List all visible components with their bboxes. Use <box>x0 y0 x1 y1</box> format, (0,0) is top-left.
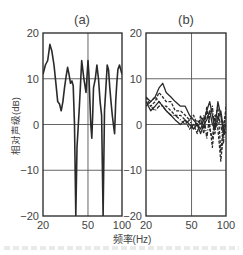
panel-b-title: (b) <box>178 12 194 27</box>
x-tick-label: 20 <box>140 219 152 231</box>
y-tick-label: −10 <box>20 164 39 176</box>
y-axis-label: 相对声级(dB) <box>10 97 21 155</box>
chart-canvas: (a) (b) 相对声级(dB) 频率(Hz) 20100−10−2020501… <box>0 0 243 255</box>
x-tick-label: 50 <box>185 219 197 231</box>
x-tick-label: 100 <box>217 219 235 231</box>
y-tick-label: 10 <box>130 73 142 85</box>
series-line <box>43 44 122 216</box>
y-tick-label: 20 <box>130 27 142 39</box>
figure: (a) (b) 相对声级(dB) 频率(Hz) 20100−10−2020501… <box>0 0 243 255</box>
x-tick-label: 20 <box>37 219 49 231</box>
panel-b: 20100−10−202050100 <box>123 27 235 231</box>
panel-a: 20100−10−202050100 <box>20 27 131 231</box>
y-tick-label: −10 <box>123 164 142 176</box>
y-tick-label: 10 <box>27 73 39 85</box>
y-tick-label: 20 <box>27 27 39 39</box>
cut-off-caption <box>4 246 239 250</box>
x-tick-label: 50 <box>82 219 94 231</box>
y-tick-label: 0 <box>33 119 39 131</box>
x-axis-label: 频率(Hz) <box>113 233 152 245</box>
y-tick-label: 0 <box>136 119 142 131</box>
panel-a-title: (a) <box>74 12 90 27</box>
